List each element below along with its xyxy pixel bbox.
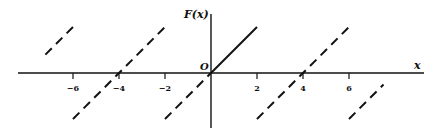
y-axis-label: F(x) [183,8,209,21]
x-tick-label: 2 [254,83,260,93]
x-tick-label: −2 [159,83,171,93]
dashed-segment [45,27,73,55]
chart: −6−4−2246 F(x) x O [0,0,435,134]
x-tick-label: 6 [346,83,352,93]
origin-label: O [200,61,209,72]
x-tick-label: −6 [67,83,80,93]
dashed-segment [165,73,211,119]
solid-segment [211,27,257,73]
x-tick-label: 4 [300,83,306,93]
x-tick-label: −4 [113,83,126,93]
dashed-segment [349,85,384,120]
x-axis-label: x [413,59,421,72]
